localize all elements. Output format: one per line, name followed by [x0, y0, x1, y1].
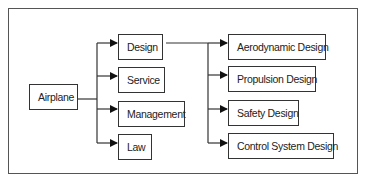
node-management-label: Management: [127, 108, 185, 120]
node-aerodynamic-design-label: Aerodynamic Design: [237, 41, 328, 53]
node-safety-design: Safety Design: [228, 100, 299, 126]
node-law-label: Law: [127, 141, 145, 153]
node-airplane: Airplane: [29, 84, 78, 110]
node-safety-design-label: Safety Design: [237, 107, 298, 119]
node-control-system-design: Control System Design: [228, 133, 334, 159]
node-control-system-design-label: Control System Design: [237, 140, 338, 152]
node-law: Law: [118, 134, 152, 160]
node-design-label: Design: [127, 41, 158, 53]
node-aerodynamic-design: Aerodynamic Design: [228, 34, 326, 60]
node-design: Design: [118, 34, 163, 60]
node-propulsion-design: Propulsion Design: [228, 66, 316, 92]
node-propulsion-design-label: Propulsion Design: [237, 73, 317, 85]
airplane-hierarchy-diagram: Airplane Design Service Management Law A…: [0, 0, 368, 182]
node-service: Service: [118, 67, 165, 93]
node-airplane-label: Airplane: [38, 91, 74, 103]
node-management: Management: [118, 101, 185, 127]
node-service-label: Service: [127, 74, 160, 86]
